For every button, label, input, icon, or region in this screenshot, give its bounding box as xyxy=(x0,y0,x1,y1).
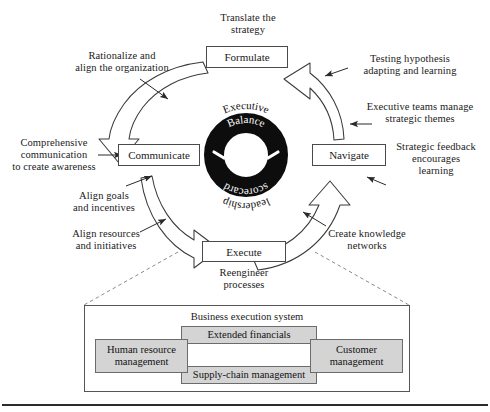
annotation-reengineer-processes: Reengineer processes xyxy=(186,267,302,291)
annotation-executive-teams-manage: Executive teams manage strategic themes xyxy=(352,101,488,125)
component-human-resource-management-label: Human resource management xyxy=(107,344,176,368)
business-execution-system-title: Business execution system xyxy=(85,311,409,322)
annotation-strategic-feedback: Strategic feedback encourages learning xyxy=(386,141,486,176)
annotation-testing-hypothesis: Testing hypothesis adapting and learning xyxy=(340,53,480,77)
component-channel xyxy=(181,344,317,366)
component-customer-management-label: Customer management xyxy=(330,344,384,368)
component-extended-financials[interactable]: Extended financials xyxy=(181,326,317,344)
dashed-right xyxy=(315,252,409,305)
annotation-rationalize-and-align: Rationalize and align the organization xyxy=(56,50,188,74)
component-extended-financials-label: Extended financials xyxy=(207,329,290,341)
node-formulate-label: Formulate xyxy=(224,51,269,63)
diagram-canvas: Executive Balance scorecard leadership xyxy=(0,0,490,412)
balanced-scorecard-ring: Executive Balance scorecard leadership xyxy=(195,99,297,213)
annotation-comprehensive-communication: Comprehensive communication to create aw… xyxy=(6,137,102,172)
component-supply-chain-management-label: Supply-chain management xyxy=(193,369,305,381)
node-communicate-label: Communicate xyxy=(128,149,190,161)
node-formulate[interactable]: Formulate xyxy=(206,46,288,68)
node-execute[interactable]: Execute xyxy=(202,241,286,262)
cycle-arrow-navigate-to-formulate xyxy=(284,63,344,140)
component-supply-chain-management[interactable]: Supply-chain management xyxy=(181,366,317,384)
dashed-left xyxy=(84,252,178,305)
annotation-translate-the-strategy: Translate the strategy xyxy=(192,12,304,36)
annotation-align-resources-and-initiatives: Align resources and initiatives xyxy=(50,228,162,252)
component-customer-management[interactable]: Customer management xyxy=(310,339,403,373)
component-human-resource-management[interactable]: Human resource management xyxy=(95,339,188,373)
node-navigate[interactable]: Navigate xyxy=(312,144,386,166)
node-execute-label: Execute xyxy=(226,246,261,258)
annotation-create-knowledge-networks: Create knowledge networks xyxy=(306,228,428,252)
annotation-align-goals-and-incentives: Align goals and incentives xyxy=(54,190,154,214)
node-communicate[interactable]: Communicate xyxy=(118,144,200,166)
pointer-strategic-feedback xyxy=(367,177,386,185)
node-navigate-label: Navigate xyxy=(329,149,369,161)
